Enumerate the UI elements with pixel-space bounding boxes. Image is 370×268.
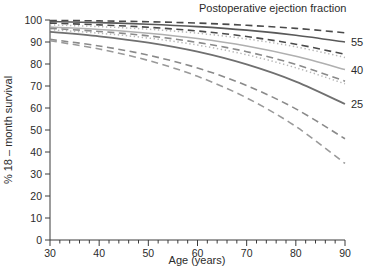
series-label-55: 55 (351, 36, 363, 48)
series-label-40: 40 (351, 64, 363, 76)
x-tick-label: 80 (290, 247, 302, 259)
y-tick-label: 60 (30, 102, 42, 114)
x-tick-label: 40 (93, 247, 105, 259)
y-tick-label: 0 (36, 234, 42, 246)
x-tick-label: 90 (339, 247, 351, 259)
y-tick-label: 70 (30, 80, 42, 92)
y-tick-label: 100 (24, 14, 42, 26)
y-tick-label: 40 (30, 146, 42, 158)
y-tick-label: 10 (30, 212, 42, 224)
series-label-layer: 554025 (351, 36, 363, 110)
y-tick-label: 90 (30, 36, 42, 48)
x-tick-label: 30 (44, 247, 56, 259)
y-axis-title: % 18 – month survival (2, 76, 14, 184)
y-tick-label: 50 (30, 124, 42, 136)
y-tick-label: 80 (30, 58, 42, 70)
survival-chart: Postoperative ejection fraction % 18 – m… (0, 0, 370, 268)
x-tick-label: 70 (241, 247, 253, 259)
x-tick-label: 60 (192, 247, 204, 259)
x-tick-label: 50 (142, 247, 154, 259)
y-tick-label: 30 (30, 168, 42, 180)
y-tick-label: 20 (30, 190, 42, 202)
chart-title: Postoperative ejection fraction (199, 2, 346, 14)
series-label-25: 25 (351, 98, 363, 110)
